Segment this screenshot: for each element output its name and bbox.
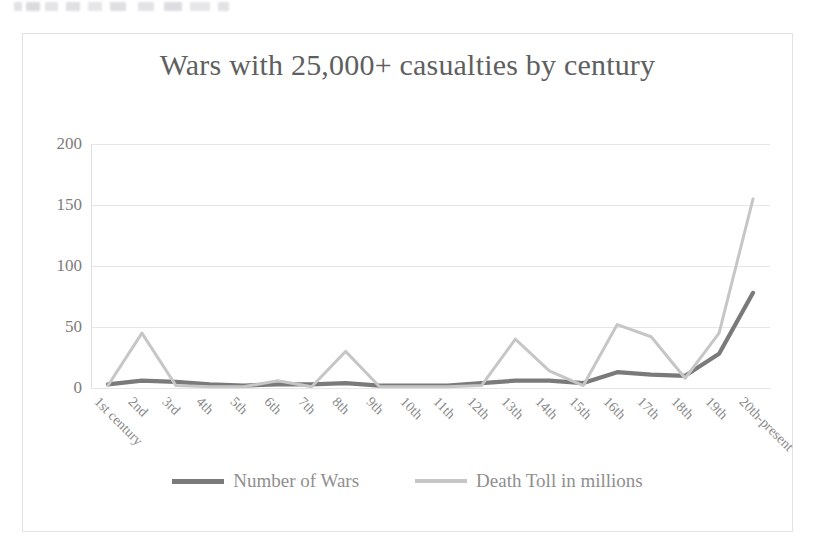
- plot-area: 050100150200: [91, 144, 770, 388]
- chart-container: Wars with 25,000+ casualties by century …: [22, 33, 793, 532]
- series-line-death-toll-in-millions: [108, 199, 753, 387]
- x-tick-11th: 11th: [430, 394, 459, 423]
- x-tick-8th: 8th: [328, 394, 352, 418]
- x-tick-20th-present: 20th-present: [736, 394, 797, 455]
- x-tick-19th: 19th: [702, 394, 731, 423]
- x-tick-15th: 15th: [566, 394, 595, 423]
- series-line-number-of-wars: [108, 293, 753, 386]
- x-tick-5th: 5th: [226, 394, 250, 418]
- y-tick-0: 0: [74, 378, 83, 398]
- legend-item-number-of-wars[interactable]: Number of Wars: [172, 470, 359, 492]
- legend-label: Number of Wars: [233, 470, 359, 492]
- x-tick-10th: 10th: [396, 394, 425, 423]
- x-tick-2nd: 2nd: [125, 394, 151, 420]
- chart-title: Wars with 25,000+ casualties by century: [23, 48, 792, 82]
- y-tick-50: 50: [65, 317, 82, 337]
- x-tick-9th: 9th: [362, 394, 386, 418]
- chart-legend: Number of WarsDeath Toll in millions: [23, 470, 792, 492]
- scan-artifact-strip: [14, 2, 229, 11]
- y-tick-100: 100: [57, 256, 83, 276]
- x-tick-17th: 17th: [634, 394, 663, 423]
- x-tick-4th: 4th: [192, 394, 216, 418]
- legend-label: Death Toll in millions: [476, 470, 643, 492]
- x-tick-13th: 13th: [498, 394, 527, 423]
- x-tick-18th: 18th: [668, 394, 697, 423]
- x-tick-14th: 14th: [532, 394, 561, 423]
- series-lines: [91, 144, 770, 388]
- x-tick-3rd: 3rd: [159, 394, 184, 419]
- y-tick-150: 150: [57, 195, 83, 215]
- legend-swatch-icon: [415, 479, 467, 483]
- x-tick-12th: 12th: [464, 394, 493, 423]
- x-tick-16th: 16th: [600, 394, 629, 423]
- x-tick-6th: 6th: [260, 394, 284, 418]
- y-tick-200: 200: [57, 134, 83, 154]
- legend-item-death-toll-in-millions[interactable]: Death Toll in millions: [415, 470, 643, 492]
- legend-swatch-icon: [172, 479, 224, 484]
- x-tick-7th: 7th: [294, 394, 318, 418]
